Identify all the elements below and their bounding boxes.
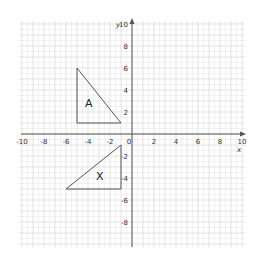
y-tick-label: -2 [121,153,128,161]
y-axis-label: y [115,21,121,29]
x-tick-label: -8 [41,138,48,146]
y-tick-label: -8 [121,219,128,227]
x-tick-label: -10 [16,138,27,146]
coordinate-plane: -10 -8 -6 -4 -2 0 2 4 6 8 10 x 10 8 6 4 … [0,0,261,264]
triangle-a-label: A [85,97,93,110]
x-tick-label: 4 [174,138,179,146]
y-tick-label: 10 [119,21,128,29]
y-axis [130,18,135,247]
y-tick-label: 2 [124,109,128,117]
y-tick-label: -4 [121,175,129,183]
y-axis-arrow-icon [130,18,135,24]
y-tick-label: 4 [124,87,129,95]
y-tick-label: 8 [124,43,128,51]
y-tick-label: -6 [121,197,129,205]
triangle-x-label: X [96,170,104,183]
x-tick-label: 10 [238,138,247,146]
x-tick-label: -4 [85,138,93,146]
x-axis-label: x [236,146,242,154]
y-tick-label: 6 [124,65,129,73]
x-tick-label: 0 [127,138,131,146]
x-tick-label: 6 [196,138,201,146]
x-axis-arrow-icon [240,132,246,137]
x-tick-label: 8 [218,138,222,146]
x-tick-label: 2 [152,138,156,146]
x-tick-label: -6 [63,138,71,146]
x-tick-label: -2 [107,138,114,146]
